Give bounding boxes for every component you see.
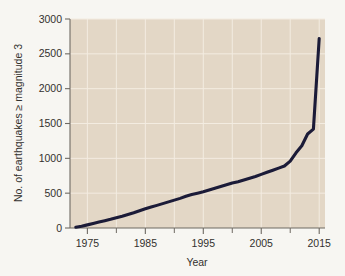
- x-tick-label: 1985: [134, 237, 158, 249]
- y-tick-label: 2500: [39, 47, 63, 59]
- y-tick-label: 2000: [39, 82, 63, 94]
- y-tick-label: 0: [56, 222, 62, 234]
- x-tick-label: 2015: [308, 237, 332, 249]
- chart-figure: 050010001500200025003000 197519851995200…: [0, 0, 345, 276]
- x-tick-label: 1995: [192, 237, 216, 249]
- y-tick-label: 1500: [39, 117, 63, 129]
- y-axis-title: No. of earthquakes ≥ magnitude 3: [12, 44, 24, 202]
- x-tick-label: 1975: [76, 237, 100, 249]
- y-tick-label: 1000: [39, 152, 63, 164]
- x-axis-title: Year: [186, 256, 208, 268]
- y-tick-label: 3000: [39, 13, 63, 25]
- earthquake-cumulative-line-chart: 050010001500200025003000 197519851995200…: [0, 0, 345, 276]
- x-tick-label: 2005: [250, 237, 274, 249]
- y-tick-label: 500: [44, 187, 62, 199]
